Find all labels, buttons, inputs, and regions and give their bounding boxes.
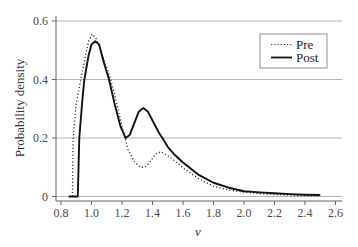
legend: Pre Post <box>260 34 327 68</box>
y-tick-label: 0.4 <box>33 73 48 87</box>
y-axis-title: Probability density <box>12 58 27 157</box>
probability-density-chart: 0.81.01.21.41.61.82.02.22.42.6 00.20.40.… <box>0 0 358 247</box>
x-axis-title: v <box>195 224 201 239</box>
x-axis-ticks: 0.81.01.21.41.61.82.02.22.42.6 <box>54 201 344 220</box>
x-tick-label: 2.6 <box>328 206 343 220</box>
x-tick-label: 1.4 <box>145 206 160 220</box>
y-tick-label: 0.6 <box>33 14 48 28</box>
y-tick-label: 0 <box>42 190 48 204</box>
y-tick-label: 0.2 <box>33 131 48 145</box>
x-tick-label: 1.6 <box>176 206 191 220</box>
x-tick-label: 2.2 <box>267 206 282 220</box>
y-axis-ticks: 00.20.40.6 <box>33 14 56 204</box>
x-tick-label: 2.4 <box>298 206 313 220</box>
x-tick-label: 2.0 <box>237 206 252 220</box>
x-tick-label: 0.8 <box>54 206 69 220</box>
x-tick-label: 1.8 <box>206 206 221 220</box>
x-tick-label: 1.0 <box>84 206 99 220</box>
x-tick-label: 1.2 <box>115 206 130 220</box>
legend-post-label: Post <box>296 50 319 65</box>
